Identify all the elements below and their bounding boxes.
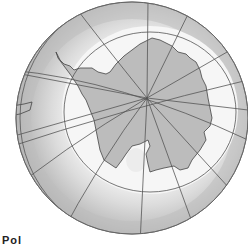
antarctica-globe-map xyxy=(0,0,248,244)
figure-caption: Pol xyxy=(2,234,22,244)
